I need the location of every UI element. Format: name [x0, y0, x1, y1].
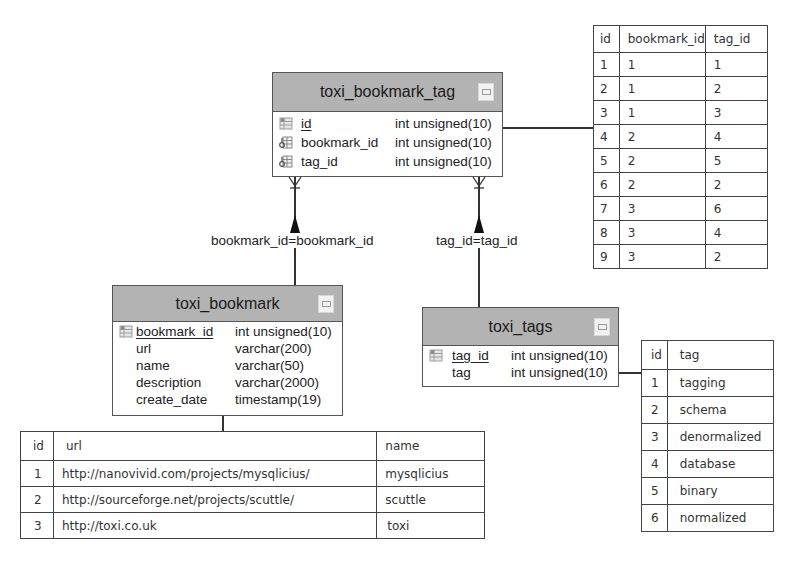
cell: 6	[642, 505, 668, 532]
cell: 2	[21, 487, 54, 513]
cell: 2	[705, 173, 767, 197]
cell: 2	[594, 77, 620, 101]
cell: 2	[705, 77, 767, 101]
cell: 3	[619, 221, 705, 245]
table-row: 736	[594, 197, 768, 221]
entity-header[interactable]: toxi_bookmark_tag	[273, 73, 502, 112]
entity-title: toxi_bookmark	[175, 295, 279, 313]
cell: 5	[594, 149, 620, 173]
column-header: tag_id	[705, 26, 767, 53]
table-row: 111	[594, 53, 768, 77]
table-row: 424	[594, 125, 768, 149]
collapse-icon[interactable]	[318, 295, 334, 313]
table-header-row: id url name	[21, 432, 485, 461]
table-row: 525	[594, 149, 768, 173]
cell: 9	[594, 245, 620, 269]
field-type: varchar(2000)	[235, 374, 319, 391]
cell: 3	[619, 197, 705, 221]
table-row: 313	[594, 101, 768, 125]
table-row: 834	[594, 221, 768, 245]
entity-toxi-bookmark-tag[interactable]: toxi_bookmark_tag id int unsigned(10) bo…	[272, 72, 503, 177]
column-header: id	[642, 341, 668, 370]
field-row: tag_id int unsigned(10)	[273, 152, 502, 171]
table-row: 2schema	[642, 397, 774, 424]
field-type: int unsigned(10)	[395, 133, 492, 152]
table-row: 1http://nanovivid.com/projects/mysqliciu…	[21, 461, 485, 487]
column-header: name	[377, 432, 485, 461]
crows-foot-many-icon	[287, 176, 303, 192]
cell: 2	[619, 125, 705, 149]
field-row: create_date timestamp(19)	[113, 391, 342, 408]
field-type: int unsigned(10)	[235, 323, 332, 340]
column-header: id	[594, 26, 620, 53]
cell: 3	[21, 513, 54, 539]
field-row: description varchar(2000)	[113, 374, 342, 391]
collapse-icon[interactable]	[478, 83, 494, 101]
collapse-icon[interactable]	[594, 318, 610, 336]
cell: 3	[594, 101, 620, 125]
cell: 1	[619, 101, 705, 125]
connector-tags-to-data	[618, 372, 641, 374]
entity-header[interactable]: toxi_tags	[423, 308, 618, 346]
table-row: 5binary	[642, 478, 774, 505]
table-tags-data: id tag 1tagging 2schema 3denormalized 4d…	[641, 340, 774, 532]
cell: schema	[667, 397, 773, 424]
field-type: int unsigned(10)	[395, 114, 492, 133]
cell: denormalized	[667, 424, 773, 451]
cell: 4	[594, 125, 620, 149]
entity-toxi-tags[interactable]: toxi_tags tag_id int unsigned(10) tag in…	[422, 307, 619, 387]
table-row: 3denormalized	[642, 424, 774, 451]
cell: 8	[594, 221, 620, 245]
cell: 1	[594, 53, 620, 77]
cell: 6	[594, 173, 620, 197]
cell: 4	[705, 125, 767, 149]
field-name: bookmark_id	[301, 133, 378, 152]
table-row: 2http://sourceforge.net/projects/scuttle…	[21, 487, 485, 513]
column-header: tag	[667, 341, 773, 370]
table-row: 212	[594, 77, 768, 101]
cell: normalized	[667, 505, 773, 532]
cell: 5	[705, 149, 767, 173]
cell: 4	[705, 221, 767, 245]
cell: http://sourceforge.net/projects/scuttle/	[53, 487, 376, 513]
entity-title: toxi_bookmark_tag	[320, 83, 455, 101]
relationship-label-bookmark: bookmark_id=bookmark_id	[211, 233, 373, 248]
cell: 1	[705, 53, 767, 77]
cell: http://toxi.co.uk	[53, 513, 376, 539]
table-row: 3http://toxi.co.uktoxi	[21, 513, 485, 539]
field-row: url varchar(200)	[113, 340, 342, 357]
cell: 5	[642, 478, 668, 505]
table-row: 932	[594, 245, 768, 269]
field-type: int unsigned(10)	[511, 364, 608, 381]
table-row: 622	[594, 173, 768, 197]
field-name: tag_id	[301, 152, 338, 171]
foreign-key-icon	[279, 155, 293, 168]
cell: 2	[619, 149, 705, 173]
table-row: 4database	[642, 451, 774, 478]
field-row: id int unsigned(10)	[273, 114, 502, 133]
primary-key-icon	[119, 325, 133, 338]
column-header: url	[53, 432, 376, 461]
cell: tagging	[667, 370, 773, 397]
field-name: tag	[452, 364, 471, 381]
field-type: int unsigned(10)	[395, 152, 492, 171]
cell: 1	[619, 77, 705, 101]
field-type: varchar(50)	[235, 357, 304, 374]
field-name: url	[136, 340, 151, 357]
cell: toxi	[377, 513, 485, 539]
entity-toxi-bookmark[interactable]: toxi_bookmark bookmark_id int unsigned(1…	[112, 285, 343, 416]
table-row: 1tagging	[642, 370, 774, 397]
field-name: id	[301, 114, 312, 133]
connector-bookmark-tag-to-data	[502, 127, 593, 129]
field-name: description	[136, 374, 201, 391]
cell: binary	[667, 478, 773, 505]
table-row: 6normalized	[642, 505, 774, 532]
field-type: varchar(200)	[235, 340, 312, 357]
entity-header[interactable]: toxi_bookmark	[113, 286, 342, 322]
field-row: name varchar(50)	[113, 357, 342, 374]
field-row: tag int unsigned(10)	[423, 364, 618, 381]
cell: 3	[619, 245, 705, 269]
entity-title: toxi_tags	[488, 318, 552, 336]
field-type: int unsigned(10)	[511, 347, 608, 364]
field-name: create_date	[136, 391, 207, 408]
